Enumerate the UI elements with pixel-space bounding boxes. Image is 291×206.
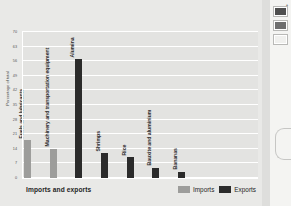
chart-legend: ImportsExports [178,186,256,193]
y-axis-tick-label: 7 [0,161,17,165]
x-axis-line [22,178,258,179]
side-panel-rounded-widget[interactable] [275,128,291,160]
y-axis-tick-label: 56 [0,59,17,63]
bar-group: Shrimps [101,32,127,178]
side-panel-swatch-light[interactable] [273,34,288,45]
bar-imports[interactable] [50,149,57,178]
caret-up-icon[interactable]: ▴ [286,2,288,7]
legend-swatch-imports [178,186,190,193]
y-axis-tick-label: 14 [0,147,17,151]
bar-exports[interactable] [101,153,108,178]
category-label: Machinery and transportation equipment [44,48,49,147]
bar-exports[interactable] [152,168,159,178]
y-axis-tick-label: 0 [0,176,17,180]
side-panel-swatch-mid[interactable] [273,20,288,31]
bar-group: Alumina [75,32,101,178]
category-label: Shrimps [96,131,101,151]
legend-item[interactable]: Exports [219,186,256,193]
color-fill [275,22,286,29]
side-panel: ▴ [262,0,291,206]
y-axis-tick-label: 28 [0,118,17,122]
bar-series-container: Fuels and lubricantsMachinery and transp… [22,32,258,178]
screenshot-root: Percentage of total 07142128354249566370… [0,0,291,206]
chart-card: Percentage of total 07142128354249566370… [0,0,262,206]
bar-group: Bananas [178,32,204,178]
legend-label: Imports [193,186,214,193]
y-axis-tick-label: 63 [0,45,17,49]
side-panel-tools: ▴ [273,6,291,48]
bar-exports[interactable] [127,157,134,178]
legend-swatch-exports [219,186,231,193]
category-label: Bauxite and aluminium [147,110,152,166]
category-label: Alumina [70,37,75,57]
chart-area: Percentage of total 07142128354249566370… [0,0,262,206]
color-fill [275,8,286,15]
y-axis-tick-label: 70 [0,30,17,34]
x-axis-title: Imports and exports [26,186,91,193]
y-axis-tick-label: 21 [0,132,17,136]
category-label: Bananas [173,148,178,169]
category-label: Rice [121,144,126,155]
legend-label: Exports [234,186,256,193]
bar-exports[interactable] [75,59,82,178]
y-axis-tick-label: 42 [0,88,17,92]
side-panel-strip [262,0,270,206]
y-axis-line [22,32,23,179]
legend-item[interactable]: Imports [178,186,214,193]
plot-area: Fuels and lubricantsMachinery and transp… [22,32,258,178]
bar-imports[interactable] [24,140,31,178]
side-panel-swatch-dark[interactable] [273,6,288,17]
color-fill [275,36,286,43]
y-axis-tick-label: 49 [0,74,17,78]
y-axis-tick-label: 35 [0,103,17,107]
